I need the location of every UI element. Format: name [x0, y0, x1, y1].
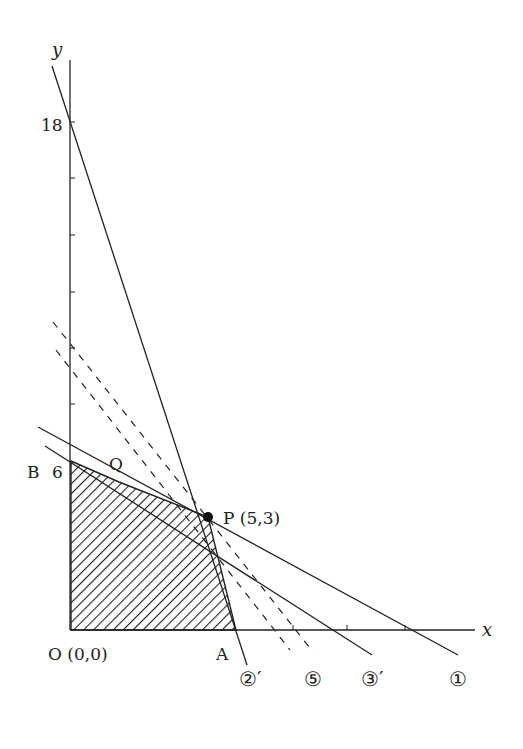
y-tick-label-18: 18: [41, 115, 63, 135]
y-axis-ticks: [70, 122, 75, 404]
line-2prime-label: ②′: [239, 667, 262, 691]
lp-diagram: y x 18 B 6 Q P (5,3) O (0,0) A ②′ ⑤ ③′ ①: [0, 0, 523, 749]
line-1-label: ①: [449, 667, 467, 691]
line-3prime-label: ③′: [361, 667, 384, 691]
point-p-dot: [203, 512, 213, 522]
point-p-label: P (5,3): [223, 508, 280, 528]
line-5-label: ⑤: [304, 667, 322, 691]
y-tick-label-6: 6: [52, 462, 63, 482]
y-axis-label: y: [51, 39, 63, 60]
point-a-label: A: [215, 644, 229, 664]
x-axis-label: x: [482, 619, 492, 640]
point-b-label: B: [27, 462, 40, 482]
feasible-region: [71, 461, 236, 630]
x-axis-ticks: [293, 625, 405, 630]
origin-label: O (0,0): [48, 644, 108, 664]
point-q-label: Q: [109, 454, 123, 474]
